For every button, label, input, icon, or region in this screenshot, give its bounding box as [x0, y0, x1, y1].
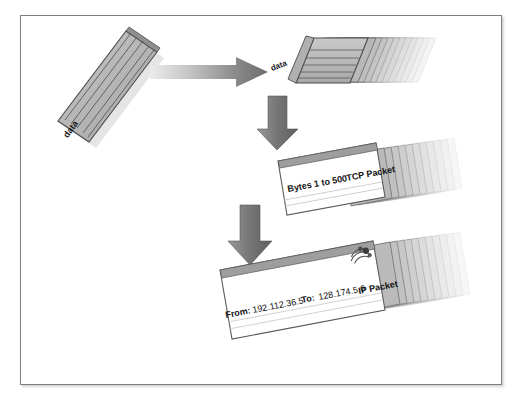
segmented-data-label: data: [269, 58, 288, 72]
ip-packet-stack-svg: From: 192.112.36.5 To: 128.174.5.6 IP Pa…: [198, 222, 473, 347]
stage-tcp-packet: Bytes 1 to 500 TCP Packet: [248, 130, 468, 235]
stage-ip-packet: From: 192.112.36.5 To: 128.174.5.6 IP Pa…: [198, 222, 473, 347]
diagram-title: Data encapsulation into TCP and IP packe…: [0, 0, 1, 1]
tcp-packet-stack-svg: Bytes 1 to 500 TCP Packet: [248, 130, 468, 235]
diagram-canvas: Data encapsulation into TCP and IP packe…: [0, 0, 519, 404]
